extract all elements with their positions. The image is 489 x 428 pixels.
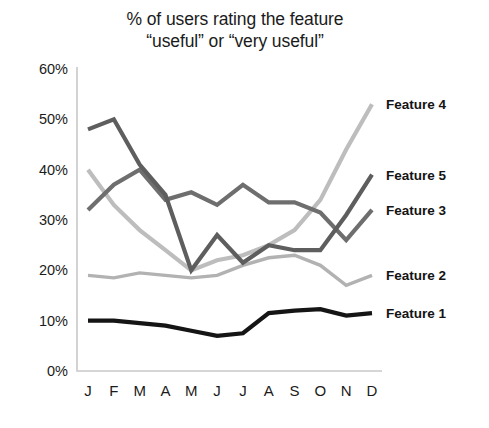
x-tick-label: A	[160, 382, 170, 399]
y-axis-tick-labels: 0%10%20%30%40%50%60%	[39, 61, 68, 379]
x-tick-label: A	[264, 382, 274, 399]
legend-label-feature-4: Feature 4	[386, 97, 447, 112]
series-lines	[88, 104, 372, 336]
chart-container: % of users rating the feature “useful” o…	[0, 0, 489, 428]
line-chart-plot: 0%10%20%30%40%50%60% JFMAMJJASOND Featur…	[0, 0, 489, 428]
y-tick-label: 20%	[39, 262, 68, 278]
axis-frame	[77, 67, 382, 371]
legend-label-feature-1: Feature 1	[386, 306, 447, 321]
legend-label-feature-3: Feature 3	[386, 203, 447, 218]
legend-label-feature-2: Feature 2	[386, 268, 446, 283]
series-line-feature-1	[88, 309, 372, 336]
y-tick-label: 30%	[39, 212, 68, 228]
x-tick-label: N	[341, 382, 352, 399]
x-tick-label: F	[109, 382, 118, 399]
x-tick-label: J	[213, 382, 221, 399]
legend-label-feature-5: Feature 5	[386, 168, 447, 183]
x-tick-label: J	[239, 382, 247, 399]
x-axis-tick-labels: JFMAMJJASOND	[84, 382, 377, 399]
y-tick-label: 10%	[39, 313, 68, 329]
y-tick-label: 40%	[39, 162, 68, 178]
x-tick-label: M	[185, 382, 198, 399]
x-tick-label: S	[290, 382, 300, 399]
x-tick-label: D	[367, 382, 378, 399]
x-tick-label: J	[84, 382, 92, 399]
series-line-feature-4	[88, 104, 372, 270]
y-tick-label: 60%	[39, 61, 68, 77]
y-tick-label: 50%	[39, 111, 68, 127]
y-tick-label: 0%	[47, 363, 68, 379]
x-tick-label: O	[315, 382, 327, 399]
series-legend: Feature 4Feature 5Feature 3Feature 2Feat…	[386, 97, 447, 321]
x-tick-label: M	[133, 382, 146, 399]
